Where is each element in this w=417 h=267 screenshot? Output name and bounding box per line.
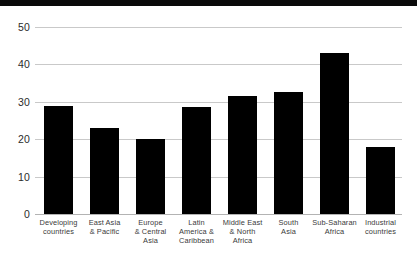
y-axis-tick-50: 50 bbox=[0, 22, 30, 32]
bar-industrial-countries bbox=[366, 147, 395, 214]
gridline-50 bbox=[35, 27, 402, 28]
x-axis-label-south-asia: South Asia bbox=[263, 218, 315, 236]
y-axis-tick-20: 20 bbox=[0, 134, 30, 144]
bar-middle-east-north-africa bbox=[228, 96, 257, 214]
x-axis-label-sub-saharan-africa: Sub-Saharan Africa bbox=[309, 218, 361, 236]
gridline-0 bbox=[35, 214, 402, 215]
bar-europe-central-asia bbox=[136, 139, 165, 214]
x-axis-label-latin-america-caribbean: Latin America & Caribbean bbox=[171, 218, 223, 246]
y-axis-tick-30: 30 bbox=[0, 97, 30, 107]
bar-latin-america-caribbean bbox=[182, 107, 211, 214]
bar-chart: 50 40 30 20 10 0 Developing countries Ea… bbox=[0, 0, 417, 267]
plot-area: 50 40 30 20 10 0 Developing countries Ea… bbox=[0, 0, 417, 267]
bar-south-asia bbox=[274, 92, 303, 214]
x-axis-label-middle-east-north-africa: Middle East & North Africa bbox=[217, 218, 269, 246]
y-axis-tick-0: 0 bbox=[0, 209, 30, 219]
x-axis-label-europe-central-asia: Europe & Central Asia bbox=[125, 218, 177, 246]
bar-east-asia-pacific bbox=[90, 128, 119, 214]
y-axis-tick-40: 40 bbox=[0, 59, 30, 69]
bar-developing-countries bbox=[44, 106, 73, 214]
x-axis-label-developing-countries: Developing countries bbox=[33, 218, 85, 236]
x-axis-label-industrial-countries: Industrial countries bbox=[355, 218, 407, 236]
bar-sub-saharan-africa bbox=[320, 53, 349, 214]
y-axis-tick-10: 10 bbox=[0, 172, 30, 182]
x-axis-label-east-asia-pacific: East Asia & Pacific bbox=[79, 218, 131, 236]
